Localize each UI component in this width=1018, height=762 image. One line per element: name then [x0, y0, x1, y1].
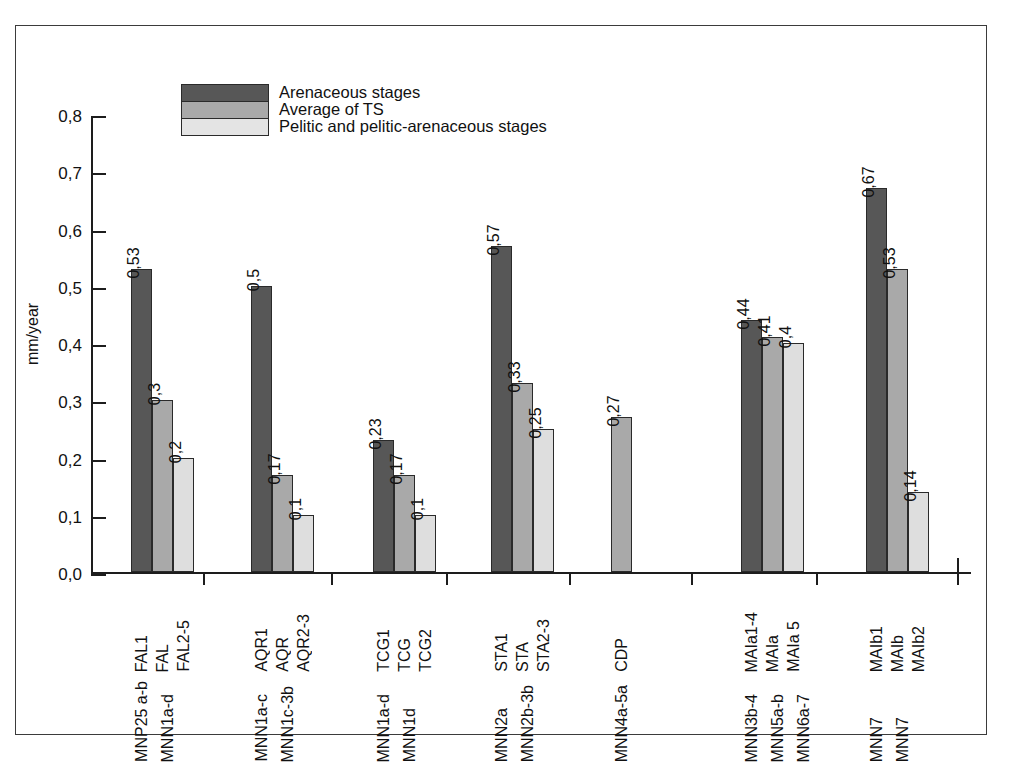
- group-aqr-stage-labels: AQR1AQRAQR2-3: [251, 614, 314, 672]
- bar-value-label: 0,23: [368, 419, 384, 450]
- x-stage-label: MAIb: [887, 635, 908, 672]
- bar-aqr2-3[interactable]: 0,1: [293, 515, 314, 572]
- x-biozone-label: MNN4a-5a: [609, 685, 635, 762]
- bar-value-label: 0,25: [528, 407, 544, 438]
- x-stage-label: STA2-3: [533, 619, 554, 672]
- x-stage-label: TCG: [394, 638, 415, 672]
- bar-value-label: 0,41: [757, 316, 773, 347]
- x-stage-label: MAIa: [762, 635, 783, 672]
- bar-value-label: 0,17: [389, 453, 405, 484]
- group-sta-stage-labels: STA1STASTA2-3: [491, 619, 554, 672]
- x-biozone-label: MNN1c-3b: [275, 686, 301, 762]
- bar-aqr1[interactable]: 0,5: [251, 286, 272, 572]
- x-stage-label: FAL2-5: [173, 620, 194, 672]
- bar-cdp[interactable]: 0,27: [611, 417, 632, 572]
- x-stage-label: AQR: [272, 637, 293, 672]
- bar-value-label: 0,53: [126, 247, 142, 278]
- bar-row: 0,570,330,25: [491, 114, 554, 572]
- group-tcg-biozone-labels: MNN1a-dMNN1d: [371, 694, 423, 762]
- x-stage-label: AQR2-3: [293, 614, 314, 672]
- x-biozone-label: MNN1a-d: [371, 694, 397, 762]
- bar-row: 0,50,170,1: [251, 114, 314, 572]
- bar-row: 0,27: [611, 114, 632, 572]
- y-tick-mark: [91, 116, 106, 118]
- bar-value-label: 0,53: [882, 247, 898, 278]
- y-tick-label: 0,1: [58, 508, 82, 528]
- bar-value-label: 0,17: [267, 453, 283, 484]
- group-fal-stage-labels: FAL1FALFAL2-5: [131, 620, 194, 672]
- bar-tcg[interactable]: 0,17: [394, 475, 415, 572]
- x-stage-label: TCG1: [373, 629, 394, 672]
- x-biozone-label: MNN1a-c: [249, 694, 275, 762]
- bar-fal1[interactable]: 0,53: [131, 269, 152, 572]
- y-tick-label: 0,5: [58, 279, 82, 299]
- bar-maib1[interactable]: 0,67: [866, 188, 887, 572]
- x-biozone-label: MNN3b-4: [739, 694, 765, 762]
- bar-row: 0,530,30,2: [131, 114, 194, 572]
- bar-sta2-3[interactable]: 0,25: [533, 429, 554, 572]
- x-biozone-label: MNN7: [890, 717, 916, 762]
- bar-fal[interactable]: 0,3: [152, 400, 173, 572]
- bar-sta1[interactable]: 0,57: [491, 246, 512, 572]
- bar-maib[interactable]: 0,53: [887, 269, 908, 572]
- y-tick-mark: [91, 173, 106, 175]
- x-biozone-label: MNN1a-d: [155, 694, 181, 762]
- bar-value-label: 0,1: [410, 498, 426, 520]
- y-tick-label: 0,8: [58, 107, 82, 127]
- x-biozone-label: MNP25 a-b: [129, 681, 155, 762]
- bar-maia[interactable]: 0,41: [762, 337, 783, 572]
- y-tick-mark: [91, 402, 106, 404]
- bar-row: 0,230,170,1: [373, 114, 436, 572]
- y-tick-mark: [91, 345, 106, 347]
- bar-value-label: 0,3: [147, 383, 163, 405]
- x-stage-label: AQR1: [251, 628, 272, 672]
- group-cdp-stage-labels: CDP: [611, 638, 632, 672]
- bar-value-label: 0,5: [246, 269, 262, 291]
- bar-value-label: 0,4: [778, 326, 794, 348]
- group-maia-biozone-labels: MNN3b-4MNN5a-bMNN6a-7: [739, 694, 817, 762]
- x-stage-label: STA: [512, 642, 533, 672]
- group-maia-stage-labels: MAIa1-4MAIaMAIa 5: [741, 612, 804, 672]
- bar-maia-5[interactable]: 0,4: [783, 343, 804, 572]
- bar-maib2[interactable]: 0,14: [908, 492, 929, 572]
- bar-value-label: 0,1: [288, 498, 304, 520]
- y-tick-label: 0,6: [58, 222, 82, 242]
- group-sta-biozone-labels: MNN2aMNN2b-3b: [489, 685, 541, 762]
- bar-value-label: 0,27: [606, 396, 622, 427]
- group-tcg-stage-labels: TCG1TCGTCG2: [373, 629, 436, 672]
- x-biozone-label: MNN2b-3b: [515, 685, 541, 762]
- x-axis-line: [91, 572, 971, 574]
- x-biozone-label: MNN6a-7: [791, 694, 817, 762]
- y-tick-label: 0,2: [58, 451, 82, 471]
- bar-value-label: 0,44: [736, 299, 752, 330]
- bar-tcg2[interactable]: 0,1: [415, 515, 436, 572]
- bar-value-label: 0,67: [861, 167, 877, 198]
- group-aqr-biozone-labels: MNN1a-cMNN1c-3b: [249, 686, 301, 762]
- y-tick-label: 0,4: [58, 336, 82, 356]
- y-tick-label: 0,3: [58, 393, 82, 413]
- y-tick-mark: [91, 517, 106, 519]
- bar-aqr[interactable]: 0,17: [272, 475, 293, 572]
- x-biozone-label: MNN2a: [489, 708, 515, 762]
- y-axis-title: mm/year: [24, 303, 42, 365]
- y-tick-label: 0,0: [58, 565, 82, 585]
- x-stage-label: MAIa1-4: [741, 612, 762, 672]
- y-tick-label: 0,7: [58, 164, 82, 184]
- plot-area: mm/year 0,00,10,20,30,40,50,60,70,8 0,53…: [91, 94, 971, 574]
- y-tick-mark: [91, 231, 106, 233]
- x-axis-stage-labels: FAL1FALFAL2-5AQR1AQRAQR2-3TCG1TCGTCG2STA…: [91, 582, 971, 672]
- figure-frame: Arenaceous stages Average of TS Pelitic …: [15, 25, 987, 735]
- bar-maia1-4[interactable]: 0,44: [741, 320, 762, 572]
- y-tick-mark: [91, 574, 106, 576]
- bar-fal2-5[interactable]: 0,2: [173, 458, 194, 573]
- x-stage-label: MAIa 5: [783, 621, 804, 672]
- x-stage-label: MAIb2: [908, 626, 929, 672]
- group-fal-biozone-labels: MNP25 a-bMNN1a-d: [129, 681, 181, 762]
- x-stage-label: STA1: [491, 633, 512, 672]
- group-cdp-biozone-labels: MNN4a-5a: [609, 685, 635, 762]
- x-stage-label: FAL: [152, 644, 173, 672]
- x-biozone-label: MNN5a-b: [765, 694, 791, 762]
- group-maib-biozone-labels: MNN7MNN7: [864, 717, 916, 762]
- x-stage-label: FAL1: [131, 635, 152, 672]
- bar-row: 0,440,410,4: [741, 114, 804, 572]
